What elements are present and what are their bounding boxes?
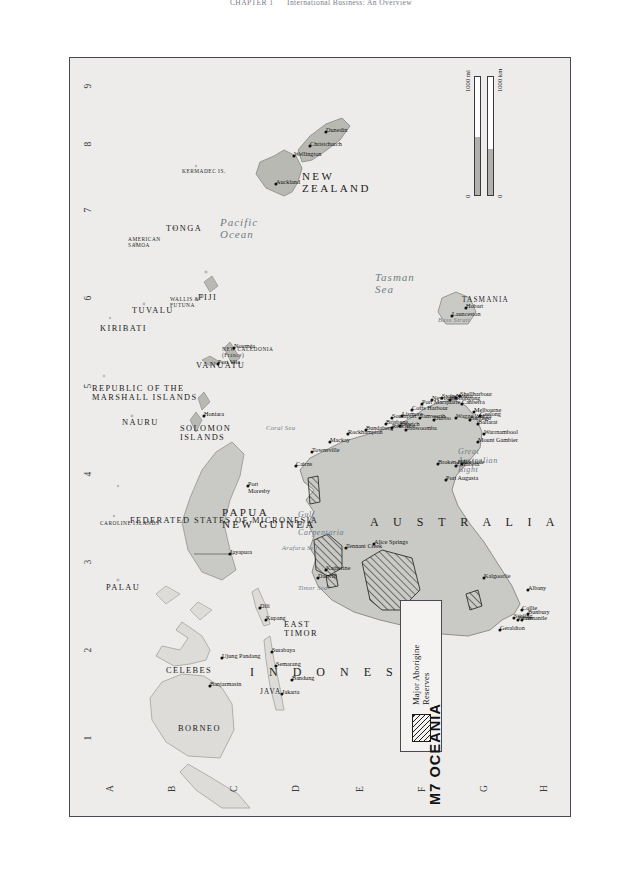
city-label-auckland: Auckland: [276, 179, 300, 186]
scale-km-max: 1000 km: [496, 69, 503, 92]
index-row-d: D: [291, 785, 301, 792]
city-label-darwin: Darwin: [318, 573, 337, 580]
city-label-albany: Albany: [528, 585, 546, 592]
city-label-dili: Dili: [260, 603, 270, 610]
city-label-banjarmasin: Banjarmasin: [210, 681, 241, 688]
map-label-american-samoa: AMERICANSAMOA: [128, 236, 161, 248]
city-label-mackay: Mackay: [330, 437, 350, 444]
map-label-palau: PALAU: [106, 583, 140, 592]
city-label-ballarat: Ballarat: [478, 419, 498, 426]
celebes-shape: [156, 622, 210, 666]
nauru-islet: [131, 415, 134, 418]
city-label-jayapura: Jayapura: [230, 549, 252, 556]
city-label-surabaya: Surabaya: [272, 647, 295, 654]
city-label-canberra: Canberra: [462, 399, 485, 406]
city-label-cairns: Cairns: [296, 461, 312, 468]
city-label-dubbo: Dubbo: [434, 415, 451, 422]
map-label-nauru: NAURU: [122, 418, 159, 427]
city-label-elizabeth: Elizabeth: [456, 461, 479, 468]
index-row-c: C: [229, 786, 239, 792]
city-label-kupang: Kupang: [266, 615, 286, 622]
moluccas-shape: [190, 602, 212, 620]
index-col-6: 6: [83, 296, 93, 301]
map-label-kiribati: KIRIBATI: [100, 324, 147, 333]
map-label-celebes: CELEBES: [166, 666, 212, 675]
city-label-coffs-harbour: Coffs Harbour: [412, 405, 448, 412]
city-label-townsville: Townsville: [312, 447, 339, 454]
running-head: CHAPTER 1 International Business: An Ove…: [0, 0, 642, 12]
scale-bar-miles: [474, 76, 481, 196]
page-title: M7 OCEANIA: [427, 703, 443, 805]
city-label-port-moresby: PortMoresby: [248, 481, 270, 495]
city-label-kalgoorlie: Kalgoorlie: [484, 573, 510, 580]
marshall-islet: [103, 375, 106, 378]
index-row-g: G: [479, 785, 489, 792]
map-label-fiji: FIJI: [198, 293, 217, 302]
city-label-hobart: Hobart: [466, 303, 483, 310]
scale-bar-km: [487, 76, 494, 196]
palau-islet: [116, 578, 119, 581]
map-label-solomon-islands: SOLOMONISLANDS: [180, 424, 231, 443]
city-label-port-augusta: Port Augusta: [446, 475, 478, 482]
index-col-9: 9: [83, 84, 93, 89]
city-label-geraldton: Geraldton: [500, 625, 525, 632]
city-label-christchurch: Christchurch: [310, 141, 342, 148]
index-col-3: 3: [83, 560, 93, 565]
city-label-bunbury: Bunbury: [528, 609, 550, 616]
city-label-launceston: Launceston: [452, 311, 481, 318]
map-label-pacific-ocean: PacificOcean: [220, 216, 258, 241]
map-label-new-zealand: NEWZEALAND: [302, 170, 371, 195]
index-col-4: 4: [83, 472, 93, 477]
index-row-b: B: [167, 786, 177, 792]
halmahera-shape: [156, 586, 180, 604]
city-label-shellharbour: Shellharbour: [460, 391, 492, 398]
map-label-republic-of-the-marshall-islands: REPUBLIC OF THEMARSHALL ISLANDS: [92, 384, 198, 403]
city-label-bundaberg: Bundaberg: [366, 425, 393, 432]
sumatra-shape: [180, 764, 250, 808]
index-row-e: E: [355, 786, 365, 792]
map-label-tuvalu: TUVALU: [132, 306, 174, 315]
city-label-fremantle: Fremantle: [522, 615, 547, 622]
city-label-geelong: Geelong: [480, 411, 501, 418]
running-head-title: International Business: An Overview: [287, 0, 412, 7]
map-label-coral-sea: Coral Sea: [266, 424, 295, 431]
running-head-chapter: CHAPTER 1: [230, 0, 273, 7]
fiji-shape: [204, 276, 218, 292]
map-label-tasman-sea: TasmanSea: [375, 271, 415, 296]
caroline-islet-2: [117, 485, 120, 488]
aborigine-reserve-cape: [308, 476, 320, 504]
scale-km-zero: 0: [496, 195, 503, 198]
city-label-warrnambool: Warrnambool: [484, 429, 518, 436]
city-label-wellington: Wellington: [294, 151, 321, 158]
scale-miles-zero: 0: [464, 195, 471, 198]
map-label-caroline-islands: CAROLINE ISLANDS: [100, 520, 159, 526]
kermadec-islet: [195, 165, 198, 168]
fiji-islet-2: [204, 270, 207, 273]
index-col-8: 8: [83, 142, 93, 147]
tuvalu-islet: [143, 303, 146, 306]
map-label-gulf-of-carpentaria: GulfofCarpentaria: [298, 511, 344, 538]
scale-bar: 0 1000 mi 0 1000 km: [462, 57, 506, 196]
map-label-east-timor: EASTTIMOR: [284, 620, 318, 639]
index-row-h: H: [539, 785, 549, 792]
city-label-jakarta: Jakarta: [282, 689, 300, 696]
map-label-a-u-s-t-r-a-l-i-a: A U S T R A L I A: [370, 516, 560, 529]
caroline-islet: [113, 515, 116, 518]
solomon-islands-shape-2: [198, 392, 210, 410]
map-label-arafura-sea: Arafura Sea: [282, 544, 317, 551]
city-label-ujung-pandang: Ujung Pandang: [222, 653, 260, 660]
map-label-borneo: BORNEO: [178, 724, 221, 733]
city-label-dunedin: Dunedin: [326, 127, 347, 134]
map-frame: 1 2 3 4 5 6 7 8 9 A B C D E F G H BORNEO…: [69, 57, 571, 817]
city-label-alice-springs: Alice Springs: [374, 539, 408, 546]
city-label-toowoomba: Toowoomba: [406, 425, 437, 432]
index-row-a: A: [105, 785, 115, 792]
city-label-noum-a: Nouméa: [234, 343, 255, 350]
index-col-2: 2: [83, 648, 93, 653]
map-label-kermadec-is: KERMADEC IS.: [182, 168, 226, 174]
index-col-1: 1: [83, 736, 93, 741]
map-plate: 1 2 3 4 5 6 7 8 9 A B C D E F G H BORNEO…: [41, 27, 601, 857]
city-label-port-vila: Port Vila: [218, 359, 240, 366]
legend-label: Major Aborigine Reserves: [411, 610, 431, 705]
map-label-tonga: TONGA: [166, 224, 202, 233]
